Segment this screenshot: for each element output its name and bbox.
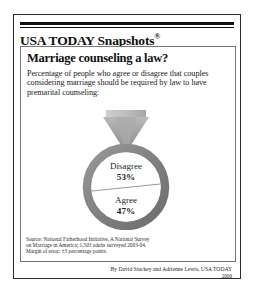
page-title: Marriage counseling a law? [27, 51, 229, 65]
ring-chart-svg: Disagree 53% Agree 47% [27, 108, 229, 230]
byline-credit: By David Stuckey and Adrienne Lewis, USA… [111, 266, 232, 272]
masthead: USA TODAY Snapshots® [20, 22, 234, 48]
slice-label-disagree: Disagree [110, 161, 142, 171]
slice-value-disagree: 53% [117, 172, 135, 182]
chart-subtitle: Percentage of people who agree or disagr… [27, 69, 227, 97]
slice-value-agree: 47% [117, 206, 135, 216]
masthead-rule-thick [20, 22, 234, 25]
source-note: Source: National Fatherhood Initiative, … [26, 236, 216, 254]
snapshot-infographic: USA TODAY Snapshots® Marriage counseling… [0, 0, 256, 293]
slice-label-agree: Agree [115, 195, 137, 205]
ring-chart: Disagree 53% Agree 47% [27, 108, 229, 230]
byline: By David Stuckey and Adrienne Lewis, USA… [0, 266, 232, 280]
diamond-table-facet [106, 110, 146, 117]
brand-logo: USA TODAY Snapshots® [20, 29, 234, 48]
source-line-3: Margin of error: ±3 percentage points. [26, 248, 216, 254]
registered-mark-icon: ® [154, 32, 160, 41]
byline-year: 2006 [0, 273, 232, 280]
masthead-rule-thin [20, 27, 234, 28]
